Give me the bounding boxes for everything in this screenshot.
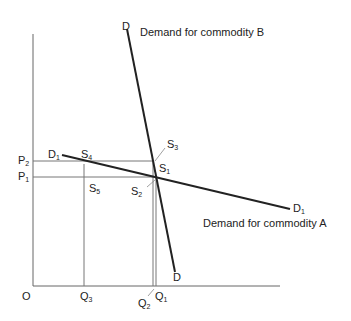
quantity-q2-label: Q2 (138, 298, 150, 310)
curve-a-left-label: D1 (48, 149, 60, 161)
curve-a-right-label: D1 (293, 203, 305, 215)
title-commodity-b: Demand for commodity B (140, 27, 264, 38)
point-s4-label: S4 (81, 149, 92, 161)
title-commodity-a: Demand for commodity A (203, 218, 327, 229)
curve-b-bottom-label: D (173, 272, 181, 283)
s3-leader (155, 148, 165, 161)
q2-leader (148, 289, 154, 296)
quantity-q1-label: Q1 (155, 291, 167, 303)
price-p1-label: P1 (18, 171, 29, 183)
point-s2-label: S2 (131, 186, 142, 198)
point-s1-label: S1 (159, 163, 170, 175)
s2-leader (147, 180, 155, 187)
price-p2-label: P2 (18, 155, 29, 167)
curve-b-top-label: D (122, 21, 130, 32)
quantity-q3-label: Q3 (80, 291, 92, 303)
point-s3-label: S3 (167, 139, 178, 151)
point-s5-label: S5 (89, 183, 100, 195)
origin-label: O (22, 291, 31, 302)
